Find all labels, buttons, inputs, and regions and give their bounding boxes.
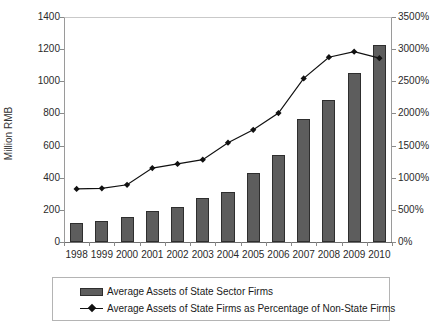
- y-tick-left: [60, 146, 64, 147]
- y-tick-label-left: 600: [43, 141, 60, 151]
- bar: [121, 217, 134, 242]
- x-tick-label: 1998: [64, 249, 89, 260]
- y-tick-label-left: 200: [43, 205, 60, 215]
- x-tick: [367, 242, 368, 246]
- x-tick: [266, 242, 267, 246]
- y-tick-label-right: 3500%: [398, 12, 429, 22]
- y-tick-left: [60, 113, 64, 114]
- y-tick-label-right: 1000%: [398, 173, 429, 183]
- x-tick: [114, 242, 115, 246]
- bar: [322, 100, 335, 242]
- y-tick-right: [392, 178, 396, 179]
- y-tick-left: [60, 210, 64, 211]
- bar: [348, 73, 361, 242]
- y-tick-right: [392, 49, 396, 50]
- x-tick-label: 2002: [165, 249, 190, 260]
- x-tick-label: 2010: [367, 249, 392, 260]
- line-diamond-icon: [80, 304, 103, 313]
- bar: [70, 223, 83, 242]
- chart-legend: Average Assets of State Sector Firms Ave…: [52, 277, 390, 321]
- y-tick-label-right: 2000%: [398, 108, 429, 118]
- x-tick: [89, 242, 90, 246]
- x-tick: [316, 242, 317, 246]
- x-tick: [165, 242, 166, 246]
- legend-label-line: Average Assets of State Firms as Percent…: [103, 303, 395, 314]
- x-tick-label: 2003: [190, 249, 215, 260]
- bar-swatch-icon: [80, 288, 103, 296]
- x-tick: [64, 242, 65, 246]
- y-tick-label-right: 0%: [398, 237, 412, 247]
- bar: [196, 198, 209, 242]
- y-tick-label-left: 400: [43, 173, 60, 183]
- x-tick: [392, 242, 393, 246]
- y-tick-label-right: 1500%: [398, 141, 429, 151]
- x-tick: [140, 242, 141, 246]
- x-tick-label: 2008: [316, 249, 341, 260]
- y-tick-label-right: 3000%: [398, 44, 429, 54]
- x-tick-label: 1999: [89, 249, 114, 260]
- y-axis-title-left-text: Million RMB: [4, 106, 15, 159]
- x-tick-label: 2004: [215, 249, 240, 260]
- chart-container: Million RMB 0200400600800100012001400 0%…: [0, 0, 446, 329]
- y-tick-left: [60, 49, 64, 50]
- bar: [146, 211, 159, 242]
- x-tick: [190, 242, 191, 246]
- bar: [272, 155, 285, 242]
- y-tick-right: [392, 113, 396, 114]
- x-tick-label: 2009: [342, 249, 367, 260]
- y-tick-label-left: 1000: [38, 76, 60, 86]
- x-tick: [342, 242, 343, 246]
- x-tick-label: 2005: [241, 249, 266, 260]
- legend-diamond-marker: [88, 304, 96, 312]
- y-tick-label-left: 800: [43, 108, 60, 118]
- bar: [247, 173, 260, 242]
- y-tick-left: [60, 81, 64, 82]
- x-tick-label: 2007: [291, 249, 316, 260]
- x-tick-label: 2000: [114, 249, 139, 260]
- legend-item-line: Average Assets of State Firms as Percent…: [53, 300, 389, 317]
- bar: [373, 45, 386, 242]
- x-tick: [291, 242, 292, 246]
- bar: [221, 192, 234, 242]
- y-tick-label-right: 500%: [398, 205, 424, 215]
- y-tick-label-left: 1200: [38, 44, 60, 54]
- x-tick-label: 2006: [266, 249, 291, 260]
- bar: [95, 221, 108, 242]
- y-tick-right: [392, 146, 396, 147]
- bar: [297, 119, 310, 242]
- y-tick-left: [60, 17, 64, 18]
- y-tick-label-left: 0: [54, 237, 60, 247]
- y-tick-right: [392, 81, 396, 82]
- x-tick: [215, 242, 216, 246]
- y-tick-right: [392, 17, 396, 18]
- x-tick: [241, 242, 242, 246]
- y-tick-right: [392, 210, 396, 211]
- y-tick-left: [60, 178, 64, 179]
- y-tick-label-left: 1400: [38, 12, 60, 22]
- legend-label-bars: Average Assets of State Sector Firms: [103, 286, 273, 297]
- bar: [171, 207, 184, 242]
- x-axis-line: [64, 242, 392, 243]
- legend-item-bars: Average Assets of State Sector Firms: [53, 283, 389, 300]
- y-tick-label-right: 2500%: [398, 76, 429, 86]
- y-axis-title-left: Million RMB: [2, 78, 16, 188]
- x-tick-label: 2001: [140, 249, 165, 260]
